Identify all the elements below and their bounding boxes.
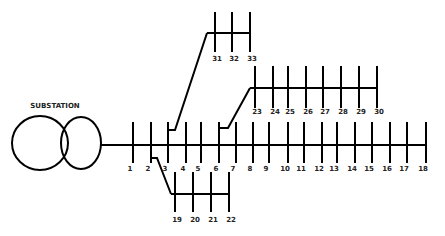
lateral-31-33: 313233 — [168, 12, 257, 130]
bus-label-17: 17 — [399, 165, 409, 173]
bus-label-28: 28 — [338, 108, 348, 116]
bus-label-1: 1 — [128, 165, 133, 173]
bus-label-11: 11 — [296, 165, 306, 173]
bus-label-5: 5 — [196, 165, 201, 173]
bus-label-8: 8 — [248, 165, 253, 173]
bus-label-33: 33 — [247, 55, 257, 63]
bus-label-29: 29 — [356, 108, 366, 116]
bus-label-15: 15 — [364, 165, 374, 173]
bus-label-6: 6 — [214, 165, 219, 173]
bus-label-22: 22 — [226, 216, 236, 224]
bus-label-20: 20 — [190, 216, 200, 224]
bus-label-27: 27 — [320, 108, 330, 116]
main-feeder: 123456789101112131415161718 — [101, 122, 428, 173]
bus-label-24: 24 — [270, 108, 280, 116]
bus-label-32: 32 — [229, 55, 239, 63]
bus-label-2: 2 — [146, 165, 151, 173]
bus-label-23: 23 — [252, 108, 262, 116]
bus-label-7: 7 — [231, 165, 236, 173]
bus-label-9: 9 — [264, 165, 269, 173]
bus-label-12: 12 — [314, 165, 324, 173]
bus-label-19: 19 — [172, 216, 182, 224]
bus-label-4: 4 — [181, 165, 186, 173]
bus-label-25: 25 — [285, 108, 295, 116]
bus-label-30: 30 — [374, 108, 384, 116]
single-line-diagram: SUBSTATION 123456789101112131415161718 1… — [0, 0, 445, 236]
bus-label-26: 26 — [303, 108, 313, 116]
bus-label-31: 31 — [212, 55, 222, 63]
lateral-23-30: 2324252627282930 — [219, 66, 384, 128]
branch-connector — [219, 88, 250, 128]
substation-label: SUBSTATION — [30, 102, 80, 110]
diagram-svg: SUBSTATION 123456789101112131415161718 1… — [0, 0, 445, 236]
bus-label-18: 18 — [418, 165, 428, 173]
substation-transformer-icon — [12, 116, 101, 170]
bus-label-21: 21 — [208, 216, 218, 224]
branch-connector — [151, 158, 171, 194]
branch-connector — [168, 33, 207, 130]
bus-label-13: 13 — [329, 165, 339, 173]
bus-label-14: 14 — [347, 165, 357, 173]
bus-label-16: 16 — [382, 165, 392, 173]
bus-label-10: 10 — [280, 165, 290, 173]
